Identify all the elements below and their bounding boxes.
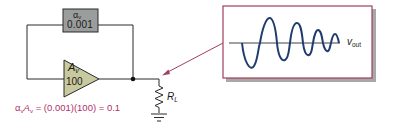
feedback-factor-value: 0.001 bbox=[67, 20, 93, 30]
load-resistor-label: RL bbox=[167, 92, 178, 103]
gain-subscript: v bbox=[75, 67, 79, 75]
vout-label: vout bbox=[347, 37, 361, 48]
circuit-diagram bbox=[0, 0, 396, 136]
eq-result: = (0.001)(100) = 0.1 bbox=[33, 102, 120, 113]
loop-gain-equation: αvAv = (0.001)(100) = 0.1 bbox=[15, 103, 120, 114]
amplifier-gain-value: 100 bbox=[66, 77, 83, 87]
ground-icon bbox=[151, 114, 167, 121]
amplifier-gain-symbol: Av bbox=[68, 62, 79, 75]
feedback-loop-wire bbox=[27, 25, 64, 79]
vout-subscript: out bbox=[352, 41, 361, 48]
output-wire bbox=[99, 79, 159, 86]
pointer-arrow-icon bbox=[162, 43, 223, 76]
resistor-subscript: L bbox=[174, 96, 178, 103]
load-resistor-icon bbox=[155, 86, 163, 113]
junction-node bbox=[131, 77, 136, 82]
feedback-return-wire bbox=[98, 25, 133, 79]
